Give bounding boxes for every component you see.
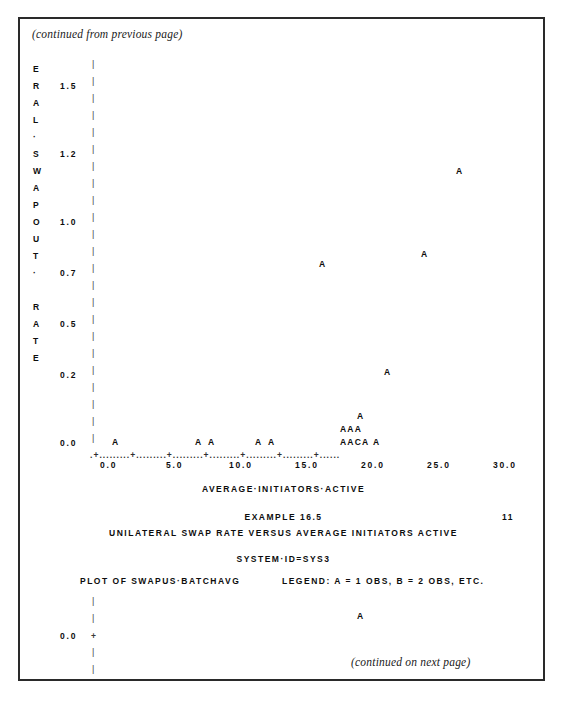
y-axis-dash: |: [92, 434, 94, 443]
x-tick-label-30-0: 30.0: [493, 461, 517, 470]
y-axis-dash: |: [92, 111, 94, 120]
continued-on-next-page-note: (continued on next page): [351, 657, 470, 669]
data-marker-a-above-cluster: A: [357, 412, 364, 421]
y-axis-dash: |: [92, 128, 94, 137]
y-axis-dash: |: [92, 179, 94, 188]
page-number: 11: [502, 513, 514, 522]
y-axis-dash: |: [92, 247, 94, 256]
y-axis-label-char-12: ·: [33, 269, 36, 278]
y-tick-label-1-5: 1.5: [60, 82, 77, 91]
y-axis-dash: |: [92, 281, 94, 290]
y-tick-label-0-5: 0.5: [60, 320, 77, 329]
y-axis-dash: |: [92, 230, 94, 239]
y-axis-dash: |: [92, 77, 94, 86]
y-axis-dash: |: [92, 417, 94, 426]
y-tick-label-1-2: 1.2: [60, 150, 77, 159]
x-tick-label-25-0: 25.0: [427, 461, 451, 470]
y-axis-label-char-11: T: [33, 252, 38, 261]
lower-panel-tick-mark: +: [91, 632, 96, 641]
lower-panel-dash: |: [92, 648, 94, 657]
y-axis-dash: |: [92, 94, 94, 103]
legend-caption: LEGEND: A = 1 OBS, B = 2 OBS, ETC.: [282, 577, 484, 586]
lower-panel-y-tick-label: 0.0: [60, 632, 77, 641]
y-tick-label-0-0: 0.0: [60, 439, 77, 448]
data-marker-a-upper-right: A: [421, 250, 428, 259]
y-axis-dash: |: [92, 366, 94, 375]
y-axis-label-char-1: R: [33, 82, 39, 91]
y-axis-dash: |: [92, 400, 94, 409]
x-axis-caption: AVERAGE·INITIATORS·ACTIVE: [20, 485, 547, 494]
y-axis-label-char-9: O: [33, 218, 40, 227]
data-marker-a-base-4: A: [255, 438, 262, 447]
y-axis-label-char-5: S: [33, 150, 39, 159]
y-axis-label-char-10: U: [33, 235, 39, 244]
y-axis-dash: |: [92, 383, 94, 392]
y-axis-dash: |: [92, 332, 94, 341]
data-marker-cluster-bottom: AACA: [340, 438, 369, 447]
y-axis-dash: |: [92, 315, 94, 324]
data-marker-a-base-1: A: [112, 438, 119, 447]
y-axis-label-char-13: R: [33, 303, 39, 312]
data-marker-a-base-5: A: [268, 438, 275, 447]
y-axis-label-char-2: A: [33, 99, 39, 108]
y-axis-label-char-7: A: [33, 184, 39, 193]
x-tick-label-0-0: 0.0: [100, 461, 117, 470]
y-axis-label-char-0: E: [33, 65, 39, 74]
y-axis-dash: |: [92, 349, 94, 358]
y-axis-label-char-4: ·: [33, 133, 36, 142]
y-axis-dash: |: [92, 145, 94, 154]
y-axis-label-char-3: L: [33, 116, 38, 125]
y-axis-dash: |: [92, 213, 94, 222]
y-tick-label-1-0: 1.0: [60, 218, 77, 227]
data-marker-a-base-3: A: [208, 438, 215, 447]
plot-title: UNILATERAL SWAP RATE VERSUS AVERAGE INIT…: [20, 529, 547, 538]
y-axis-label-char-16: E: [33, 354, 39, 363]
y-tick-label-0-7: 0.7: [60, 269, 77, 278]
y-axis-dash: |: [92, 60, 94, 69]
lower-panel-dash: |: [92, 597, 94, 606]
data-marker-a-low-mid: A: [384, 368, 391, 377]
x-axis-line: .+.........+.........+.........+........…: [90, 451, 340, 460]
y-tick-label-0-2: 0.2: [60, 371, 77, 380]
y-axis-dash: |: [92, 298, 94, 307]
x-tick-label-10-0: 10.0: [229, 461, 253, 470]
plot-of-caption: PLOT OF SWAPUS·BATCHAVG: [80, 577, 240, 586]
y-axis-label-char-14: A: [33, 320, 39, 329]
y-axis-dash: |: [92, 264, 94, 273]
data-marker-a-top-right: A: [456, 167, 463, 176]
y-axis-label-char-8: P: [33, 201, 39, 210]
y-axis-dash: |: [92, 196, 94, 205]
y-axis-dash: |: [92, 162, 94, 171]
lower-panel-dash: |: [92, 665, 94, 674]
continued-from-previous-page-note: (continued from previous page): [32, 29, 182, 41]
data-marker-a-base-2: A: [195, 438, 202, 447]
x-tick-label-20-0: 20.0: [361, 461, 385, 470]
x-tick-label-15-0: 15.0: [295, 461, 319, 470]
y-axis-label-char-15: T: [33, 337, 38, 346]
y-axis-label-char-6: W: [33, 167, 41, 176]
lower-panel-dash: |: [92, 614, 94, 623]
page-frame: (continued from previous page) ERAL·SWAP…: [18, 17, 545, 681]
x-tick-label-5-0: 5.0: [166, 461, 183, 470]
example-caption: EXAMPLE 16.5: [20, 513, 547, 522]
system-id-caption: SYSTEM·ID=SYS3: [20, 555, 547, 564]
data-marker-a-mid: A: [319, 260, 326, 269]
lower-panel-data-marker-a: A: [357, 612, 364, 621]
data-marker-cluster-top: AAA: [340, 425, 362, 434]
data-marker-a-base-6: A: [373, 438, 380, 447]
